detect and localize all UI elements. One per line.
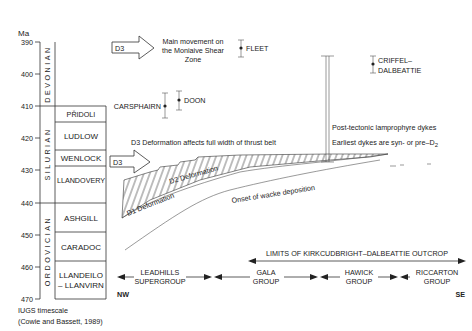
series-ashgill: ASHGILL <box>64 214 98 223</box>
series-ludlow: LUDLOW <box>64 132 99 141</box>
outcrop-limits-label: LIMITS OF KIRKCUDBRIGHT–DALBEATTIE OUTCR… <box>266 249 448 258</box>
tick-420: 420 <box>21 134 33 143</box>
moniaive-text-line1: Main movement on <box>162 37 223 46</box>
dykes-text-line1: Post-tectonic lamprophyre dykes <box>332 123 437 132</box>
series-wenlock: WENLOCK <box>61 154 102 163</box>
svg-text:D3: D3 <box>113 158 122 167</box>
tick-400: 400 <box>21 70 33 79</box>
group-hawick-line1: HAWICK <box>345 268 374 277</box>
criffel-label-line1: CRIFFEL– <box>378 56 412 65</box>
moniaive-text-line3: Zone <box>185 55 201 64</box>
tick-410: 410 <box>21 102 33 111</box>
group-gala-line2: GROUP <box>253 277 280 286</box>
group-gala-line1: GALA <box>256 268 275 277</box>
outcrop-limits-arrow <box>248 258 466 264</box>
moniaive-text-line2: the Moniaive Shear <box>162 46 225 55</box>
axis-unit-label: Ma <box>18 29 30 38</box>
fleet-range-bar <box>238 40 244 57</box>
criffel-range-bar <box>370 56 376 73</box>
axis-ticks <box>35 42 40 299</box>
series-pridoli: PŘIDOLI <box>67 110 96 119</box>
direction-nw: NW <box>117 290 129 299</box>
thrust-belt-deformation <box>122 154 431 218</box>
tick-440: 440 <box>21 199 33 208</box>
criffel-label-line2: DALBEATTIE <box>378 66 422 75</box>
doon-label: DOON <box>184 96 206 105</box>
group-riccarton-line2: GROUP <box>424 277 451 286</box>
tick-430: 430 <box>21 166 33 175</box>
group-hawick-line2: GROUP <box>346 277 373 286</box>
d3-deformation-text: D3 Deformation affects full width of thr… <box>131 138 276 147</box>
group-riccarton-line1: RICCARTON <box>416 268 458 277</box>
series-llandovery: LLANDOVERY <box>57 176 105 185</box>
d3-mid-arrow: D3 <box>110 150 150 173</box>
period-ordovician: ORDOVICIAN <box>43 216 52 287</box>
group-leadhills-line2: SUPERGROUP <box>134 277 185 286</box>
d3-top-arrow: D3 <box>112 36 154 59</box>
period-column: DEVONIAN SILURIAN ORDOVICIAN <box>40 42 106 299</box>
tick-450: 450 <box>21 231 33 240</box>
carsphairn-range-bar <box>162 93 168 118</box>
group-leadhills-line1: LEADHILLS <box>141 268 180 277</box>
tick-390: 390 <box>21 38 33 47</box>
timescale-note-line1: IUGS timescale <box>18 306 68 315</box>
svg-text:D3: D3 <box>115 44 124 53</box>
geologic-timeline-diagram: Ma 390 400 410 420 430 440 450 460 470 D… <box>0 0 472 331</box>
series-caradoc: CARADOC <box>61 243 101 252</box>
period-devonian: DEVONIAN <box>43 45 52 103</box>
series-column: PŘIDOLI LUDLOW WENLOCK LLANDOVERY ASHGIL… <box>55 106 106 299</box>
period-silurian: SILURIAN <box>43 127 52 180</box>
series-llanvirn: – LLANVIRN <box>58 281 104 290</box>
doon-range-bar <box>176 91 182 110</box>
timescale-note-line2: (Cowie and Bassett, 1989) <box>18 317 103 326</box>
series-llandeilo: LLANDEILO <box>59 271 103 280</box>
carsphairn-label: CARSPHAIRN <box>114 102 161 111</box>
direction-se: SE <box>455 290 465 299</box>
time-axis: Ma 390 400 410 420 430 440 450 460 470 <box>18 29 40 304</box>
wacke-onset-label: Onset of wacke deposition <box>231 183 316 205</box>
fleet-label: FLEET <box>246 44 269 53</box>
tick-470: 470 <box>21 295 33 304</box>
dykes-text-line2: Earliest dykes are syn- or pre–D2 <box>332 138 439 148</box>
tick-460: 460 <box>21 263 33 272</box>
